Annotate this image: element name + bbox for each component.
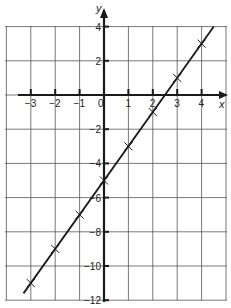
x-tick-label: −1 xyxy=(74,98,86,109)
data-series xyxy=(23,27,213,294)
x-tick-label: 2 xyxy=(150,98,156,109)
series-line xyxy=(23,27,213,294)
x-tick-label: 1 xyxy=(125,98,131,109)
y-tick-label: −12 xyxy=(84,295,101,306)
y-tick-label: 2 xyxy=(95,56,101,67)
x-tick-label: 3 xyxy=(174,98,180,109)
x-tick-label: 0 xyxy=(98,98,104,109)
y-tick-label: −10 xyxy=(84,261,101,272)
tick-labels: −3−2−10123442−2−4−6−8−10−12 xyxy=(25,22,205,307)
y-tick-label: −4 xyxy=(90,158,102,169)
y-tick-label: −8 xyxy=(90,227,102,238)
y-tick-label: −2 xyxy=(90,124,102,135)
x-tick-label: 4 xyxy=(199,98,205,109)
y-tick-label: 4 xyxy=(95,22,101,33)
x-tick-label: −2 xyxy=(49,98,61,109)
chart-canvas: −3−2−10123442−2−4−6−8−10−12 x y xyxy=(0,0,231,308)
x-tick-label: −3 xyxy=(25,98,37,109)
y-axis-label: y xyxy=(95,2,103,14)
line-chart: −3−2−10123442−2−4−6−8−10−12 x y xyxy=(0,0,231,308)
x-axis-label: x xyxy=(218,98,225,110)
